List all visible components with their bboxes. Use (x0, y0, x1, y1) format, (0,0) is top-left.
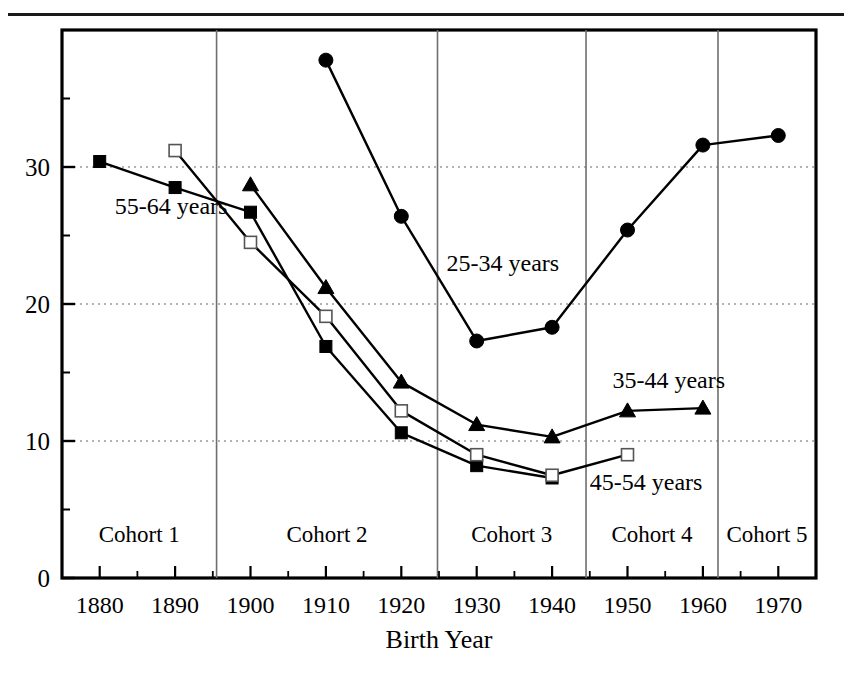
x-axis-tick-label: 1950 (604, 592, 652, 618)
x-axis-tick-label: 1880 (76, 592, 124, 618)
data-point-marker (771, 128, 785, 142)
data-point-marker (394, 209, 408, 223)
cohort-band-label: Cohort 5 (726, 522, 807, 547)
y-axis-tick-label: 10 (25, 428, 50, 455)
x-axis-tick-label: 1940 (528, 592, 576, 618)
data-point-marker (395, 427, 407, 439)
x-axis-tick-label: 1960 (679, 592, 727, 618)
data-point-marker (621, 223, 635, 237)
data-point-marker (395, 405, 407, 417)
data-point-marker (545, 320, 559, 334)
x-axis-tick-label: 1920 (377, 592, 425, 618)
x-axis-tick-label: 1970 (754, 592, 802, 618)
cohort-band-label: Cohort 1 (99, 522, 180, 547)
x-axis-tick-label: 1900 (227, 592, 275, 618)
data-point-marker (320, 340, 332, 352)
data-point-marker (245, 236, 257, 248)
data-point-marker (471, 449, 483, 461)
data-point-marker (469, 417, 485, 431)
series-annotation-label: 35-44 years (612, 367, 725, 393)
data-point-marker (470, 334, 484, 348)
x-axis-tick-label: 1930 (453, 592, 501, 618)
series-line (326, 60, 778, 341)
x-axis-tick-label: 1910 (302, 592, 350, 618)
x-axis-title: Birth Year (386, 625, 493, 654)
series-annotation-label: 25-34 years (447, 250, 560, 276)
data-point-marker (696, 138, 710, 152)
series-annotation-label: 45-54 years (590, 469, 703, 495)
y-axis-tick-label: 20 (25, 291, 50, 318)
series-annotation-label: 55-64 years (115, 193, 228, 219)
y-axis-tick-label: 30 (25, 154, 50, 181)
cohort-band-label: Cohort 2 (286, 522, 367, 547)
data-point-marker (546, 469, 558, 481)
data-point-marker (319, 53, 333, 67)
data-point-marker (320, 310, 332, 322)
line-chart: 0102030188018901900191019201930194019501… (0, 0, 850, 673)
data-point-marker (695, 400, 711, 414)
data-point-marker (243, 177, 259, 191)
cohort-band-label: Cohort 3 (471, 522, 552, 547)
y-axis-tick-label: 0 (38, 565, 51, 592)
cohort-band-label: Cohort 4 (611, 522, 693, 547)
data-point-marker (245, 206, 257, 218)
data-point-marker (169, 145, 181, 157)
x-axis-tick-label: 1890 (151, 592, 199, 618)
series-25-34-years (319, 53, 785, 348)
data-point-marker (94, 156, 106, 168)
plot-frame (62, 30, 816, 578)
figure-container: 0102030188018901900191019201930194019501… (0, 0, 850, 673)
data-point-marker (622, 449, 634, 461)
